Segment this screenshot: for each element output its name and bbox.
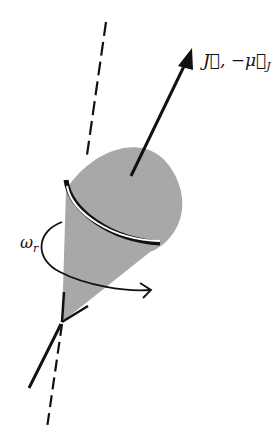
- symmetry-axis-upper: [87, 22, 106, 155]
- vector-extension-lower: [29, 324, 61, 388]
- precession-rate-label: ωr: [20, 233, 38, 255]
- angular-momentum-label-sub: J: [266, 60, 270, 73]
- vector-arrowhead: [178, 48, 193, 70]
- precession-rate-label-text: ω: [20, 233, 33, 252]
- precession-rate-label-sub: r: [33, 242, 38, 255]
- angular-momentum-label-text: J⃗, −μ⃗: [203, 50, 266, 70]
- angular-momentum-label: J⃗, −μ⃗J: [203, 50, 271, 73]
